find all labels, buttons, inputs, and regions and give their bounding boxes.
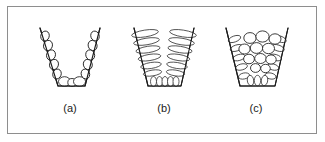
grain (251, 64, 261, 73)
grain (166, 69, 185, 78)
grain (168, 77, 174, 87)
panel-label-b: (b) (157, 102, 170, 114)
grain (173, 77, 179, 87)
grain (151, 77, 157, 87)
grain (256, 31, 269, 42)
grain (261, 75, 269, 86)
grain (235, 63, 248, 72)
panel-c: (c) (226, 28, 288, 114)
panel-label-c: (c) (250, 102, 263, 114)
grain (269, 34, 281, 44)
grain (255, 54, 267, 64)
grain (244, 54, 255, 64)
grain (157, 77, 163, 87)
grain (250, 43, 262, 54)
panel-c-grains (226, 28, 288, 86)
panel-a-grains (39, 28, 100, 87)
panel-b-grains (131, 28, 197, 87)
grain (254, 75, 260, 85)
grain (247, 75, 255, 86)
panel-label-a: (a) (63, 102, 76, 114)
grain (162, 77, 168, 87)
grain (266, 55, 276, 64)
panel-a: (a) (39, 28, 100, 114)
grain (261, 64, 271, 72)
panel-b: (b) (131, 28, 197, 114)
grain (244, 33, 256, 44)
grain-structure-figure: (a) (b) (0, 0, 325, 142)
grain (263, 43, 275, 53)
grain (239, 44, 250, 54)
